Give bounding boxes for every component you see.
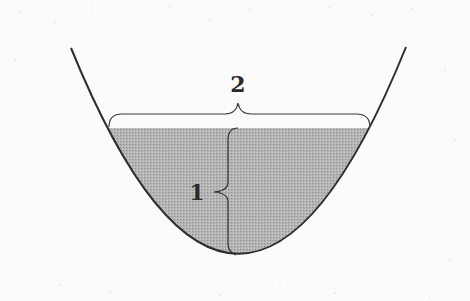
width-label: 2 — [230, 71, 245, 97]
depth-label: 1 — [189, 179, 204, 205]
parabola-diagram: 2 1 — [0, 0, 470, 301]
liquid-fill — [60, 128, 420, 268]
width-brace — [109, 103, 370, 127]
